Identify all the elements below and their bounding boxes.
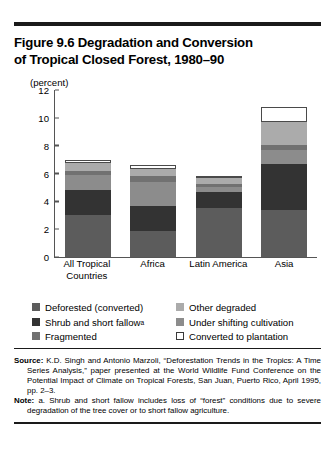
figure-title-line-2: of Tropical Closed Forest, 1980–90: [14, 52, 321, 69]
legend-label: Other degraded: [189, 302, 256, 313]
footnote-note: Note: a. Shrub and short fallow includes…: [14, 396, 321, 416]
bar-segment: [65, 175, 111, 190]
x-axis-labels: All Tropical CountriesAfricaLatin Americ…: [54, 258, 317, 281]
legend-item-3[interactable]: Under shifting cultivation: [176, 317, 321, 328]
figure-container: Figure 9.6 Degradation and Conversion of…: [0, 22, 335, 466]
figure-title: Figure 9.6 Degradation and Conversion of…: [14, 35, 321, 68]
bar-africa[interactable]: [130, 90, 176, 257]
bar-segment: [261, 122, 307, 145]
legend-divider-rule: [14, 348, 321, 349]
bottom-rule: [14, 422, 321, 424]
x-axis-label-asia: Asia: [254, 258, 314, 281]
legend-item-0[interactable]: Deforested (converted): [32, 302, 176, 313]
bar-asia[interactable]: [261, 90, 307, 257]
note-label: Note:: [14, 396, 34, 405]
note-text: a. Shrub and short fallow includes loss …: [27, 396, 321, 415]
bar-segment: [65, 163, 111, 171]
x-axis-label-africa: Africa: [122, 258, 182, 281]
legend-footnote-marker: a: [140, 317, 144, 328]
bar-all-tropical-countries[interactable]: [65, 90, 111, 257]
legend-swatch-icon: [32, 318, 40, 326]
y-axis-tick-4: 4: [44, 196, 55, 207]
legend-item-2[interactable]: Shrub and short fallow a: [32, 317, 176, 328]
y-axis-tick-2: 2: [44, 224, 55, 235]
legend-swatch-icon: [32, 332, 40, 340]
bar-segment: [130, 169, 176, 176]
figure-notes: Source: K.D. Singh and Antonio Marzoli, …: [14, 356, 321, 416]
y-axis-tick-10: 10: [38, 112, 55, 123]
legend-label: Deforested (converted): [45, 302, 143, 313]
top-rule: [14, 22, 321, 26]
bar-segment: [130, 231, 176, 257]
x-axis-label-all-tropical-countries: All Tropical Countries: [57, 258, 117, 281]
legend-item-5[interactable]: Converted to plantation: [176, 331, 321, 342]
legend-label: Fragmented: [45, 331, 97, 342]
chart-plot-area: 024681012 All Tropical CountriesAfricaLa…: [30, 90, 321, 276]
bar-group: [55, 90, 317, 257]
legend-swatch-icon: [176, 303, 184, 311]
bar-segment: [196, 192, 242, 209]
x-axis-label-latin-america: Latin America: [188, 258, 248, 281]
bar-segment: [261, 164, 307, 210]
legend-item-4[interactable]: Fragmented: [32, 331, 176, 342]
y-axis-tick-8: 8: [44, 140, 55, 151]
chart-axes: 024681012: [54, 90, 317, 258]
y-axis-tick-12: 12: [38, 85, 55, 96]
legend-label: Shrub and short fallow: [45, 317, 140, 328]
legend-label: Under shifting cultivation: [189, 317, 294, 328]
y-axis-unit-label: (percent): [30, 77, 321, 88]
source-text: K.D. Singh and Antonio Marzoli, “Defores…: [27, 356, 321, 395]
bar-latin-america[interactable]: [196, 90, 242, 257]
bar-segment: [261, 107, 307, 122]
legend-swatch-icon: [176, 318, 184, 326]
y-axis-tick-6: 6: [44, 168, 55, 179]
bar-segment: [261, 210, 307, 257]
legend-swatch-icon: [176, 332, 184, 340]
legend-item-1[interactable]: Other degraded: [176, 302, 321, 313]
chart-legend: Deforested (converted)Other degradedShru…: [32, 302, 321, 342]
bar-segment: [130, 206, 176, 231]
source-note: Source: K.D. Singh and Antonio Marzoli, …: [14, 356, 321, 396]
source-label: Source:: [14, 356, 43, 365]
bar-segment: [65, 215, 111, 257]
bar-segment: [65, 190, 111, 215]
figure-title-line-1: Figure 9.6 Degradation and Conversion: [14, 35, 321, 52]
legend-swatch-icon: [32, 303, 40, 311]
bar-segment: [130, 182, 176, 206]
legend-label: Converted to plantation: [189, 331, 288, 342]
bar-segment: [261, 150, 307, 164]
bar-segment: [196, 208, 242, 257]
